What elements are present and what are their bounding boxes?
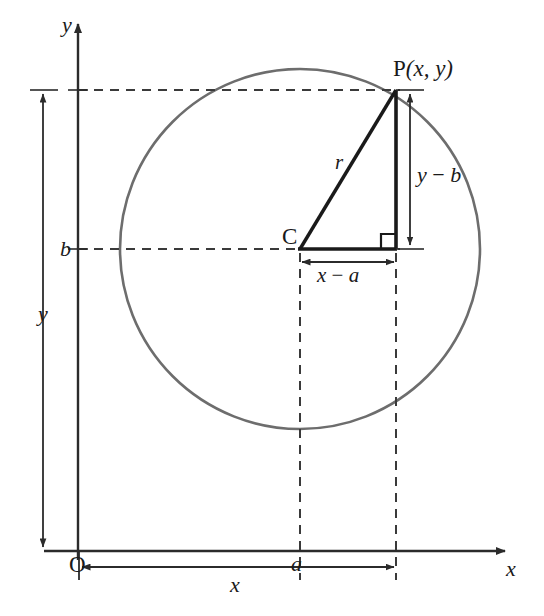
circle-center-label: C <box>282 225 297 248</box>
dimension-label-y-minus-b: y − b <box>417 164 461 186</box>
radius-label: r <box>335 152 343 173</box>
dimension-y-minus-b-operator: − <box>432 162 444 187</box>
triangle-hypotenuse-radius <box>300 90 396 249</box>
point-p-label-text: P <box>393 56 406 81</box>
diagram-vector-layer <box>0 0 544 616</box>
origin-label: O <box>69 553 86 576</box>
tick-label-b: b <box>60 238 71 260</box>
dimension-x-minus-a-operator: − <box>332 263 344 287</box>
dimension-x-minus-a-term2: a <box>349 263 360 287</box>
dimension-label-full-x: x <box>230 574 240 596</box>
dimension-label-x-minus-a: x − a <box>317 265 359 286</box>
dimension-y-minus-b-term2: b <box>450 162 461 187</box>
point-p-label-coords: (x, y) <box>406 56 453 81</box>
x-axis-label: x <box>506 558 516 580</box>
tick-label-a: a <box>291 553 302 575</box>
point-p-label: P(x, y) <box>393 57 453 80</box>
right-angle-icon <box>381 234 396 249</box>
geometry-diagram-canvas: y x O b y a x C r P(x, y) x − a y − b <box>0 0 544 616</box>
dimension-y-minus-b-term1: y <box>417 162 427 187</box>
dimension-label-full-y: y <box>38 303 48 325</box>
y-axis-label: y <box>62 14 72 36</box>
dimension-x-minus-a-term1: x <box>317 263 326 287</box>
right-triangle <box>298 90 397 249</box>
